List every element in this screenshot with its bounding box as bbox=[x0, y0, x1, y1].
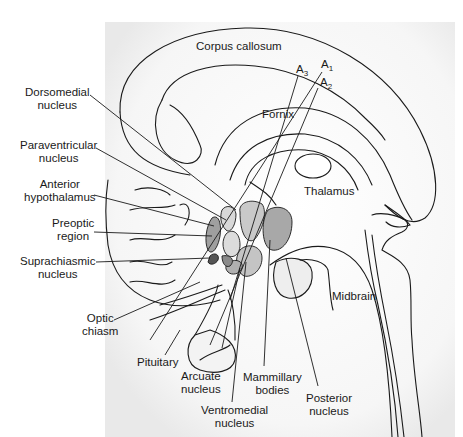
label-preoptic-region: Preopticregion bbox=[52, 217, 94, 243]
label-a2: A2 bbox=[320, 76, 332, 93]
label-posterior-nucleus: Posteriornucleus bbox=[306, 392, 352, 418]
label-anterior-hypothalamus: Anteriorhypothalamus bbox=[24, 178, 96, 204]
label-paraventricular-nucleus: Paraventricularnucleus bbox=[20, 139, 97, 165]
label-thalamus: Thalamus bbox=[304, 185, 355, 198]
label-arcuate-nucleus: Arcuatenucleus bbox=[181, 370, 221, 396]
massa-intermedia bbox=[295, 154, 331, 178]
label-a1: A1 bbox=[321, 58, 333, 75]
label-corpus-callosum: Corpus callosum bbox=[196, 40, 282, 53]
label-fornix: Fornix bbox=[262, 108, 294, 121]
label-midbrain: Midbrain bbox=[332, 290, 376, 303]
label-suprachiasmic-nucleus: Suprachiasmicnucleus bbox=[20, 255, 95, 281]
label-optic-chiasm: Opticchiasm bbox=[82, 312, 118, 338]
label-pituitary: Pituitary bbox=[137, 356, 179, 369]
anterior-hypothalamus-shape bbox=[223, 231, 240, 256]
hypothalamus-diagram: Corpus callosum Fornix Thalamus Midbrain… bbox=[0, 0, 463, 437]
label-a3: A3 bbox=[296, 63, 308, 80]
label-ventromedial-nucleus: Ventromedialnucleus bbox=[201, 404, 268, 430]
label-mammillary-bodies: Mammillarybodies bbox=[243, 371, 302, 397]
label-dorsomedial-nucleus: Dorsomedialnucleus bbox=[25, 86, 90, 112]
